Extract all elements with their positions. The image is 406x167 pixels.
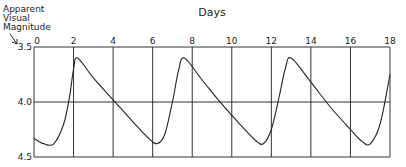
chart: 024681012141618 3.54.04.5 Days ApparentV… bbox=[0, 0, 406, 167]
x-tick-labels: 024681012141618 bbox=[34, 36, 396, 46]
y-axis-arrow-icon bbox=[10, 34, 17, 44]
x-tick-label: 12 bbox=[266, 36, 277, 46]
x-tick-label: 14 bbox=[305, 36, 317, 46]
x-tick-label: 6 bbox=[150, 36, 156, 46]
x-tick-label: 2 bbox=[71, 36, 77, 46]
y-tick-label: 4.0 bbox=[18, 97, 33, 107]
y-tick-label: 4.5 bbox=[18, 152, 32, 162]
x-tick-label: 18 bbox=[384, 36, 396, 46]
x-tick-label: 0 bbox=[34, 36, 40, 46]
x-axis-label: Days bbox=[198, 6, 226, 19]
x-tick-label: 4 bbox=[110, 36, 116, 46]
y-axis-label: ApparentVisualMagnitude bbox=[3, 4, 51, 32]
x-tick-label: 10 bbox=[226, 36, 238, 46]
grid bbox=[34, 47, 390, 157]
x-tick-label: 16 bbox=[345, 36, 357, 46]
y-tick-labels: 3.54.04.5 bbox=[18, 42, 33, 162]
x-tick-label: 8 bbox=[189, 36, 195, 46]
y-axis-label-line: Magnitude bbox=[3, 22, 51, 32]
y-tick-label: 3.5 bbox=[18, 42, 32, 52]
